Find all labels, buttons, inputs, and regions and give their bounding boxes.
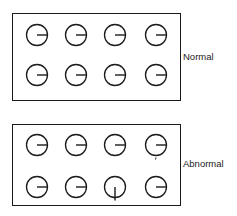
abnormal-label: Abnormal bbox=[183, 158, 224, 169]
dial-circle bbox=[146, 135, 167, 160]
dial-circle bbox=[105, 65, 126, 86]
dial-circle bbox=[66, 65, 87, 86]
dial-circle bbox=[105, 135, 126, 156]
dial-circle bbox=[27, 135, 48, 156]
dial-circle bbox=[146, 65, 167, 86]
dial-circle bbox=[66, 135, 87, 156]
normal-panel bbox=[12, 13, 181, 101]
dial-circle bbox=[146, 177, 167, 198]
tick-mark bbox=[156, 158, 157, 160]
dial-circle bbox=[146, 25, 167, 46]
dial-circle bbox=[27, 65, 48, 86]
normal-label: Normal bbox=[183, 51, 214, 62]
dial-circle bbox=[66, 25, 87, 46]
abnormal-circle-grid bbox=[13, 125, 182, 207]
abnormal-panel bbox=[12, 124, 181, 206]
dial-circle bbox=[27, 177, 48, 198]
dial-circle bbox=[66, 177, 87, 198]
dial-circle bbox=[27, 25, 48, 46]
dial-circle bbox=[105, 25, 126, 46]
normal-circle-grid bbox=[13, 14, 182, 102]
dial-circle bbox=[105, 177, 126, 201]
